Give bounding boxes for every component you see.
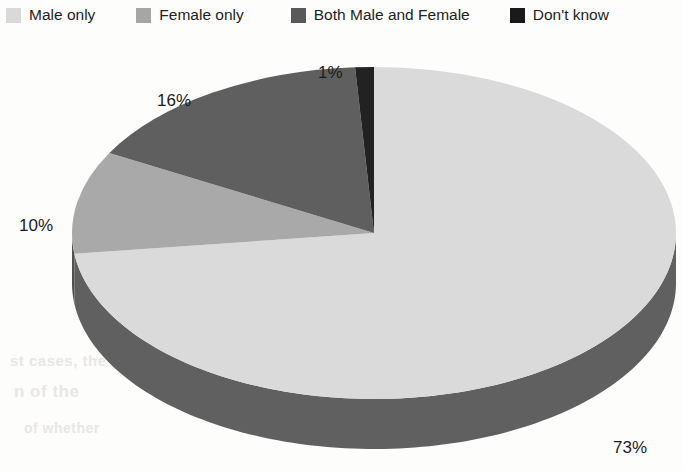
pie-data-label-both-male-and-female: 16% — [157, 92, 191, 109]
legend-item-dont-know: Don't know — [510, 0, 609, 30]
pie-data-label-dont-know: 1% — [318, 64, 343, 81]
legend-label-both-male-and-female: Both Male and Female — [314, 7, 470, 23]
legend-swatch-male-only — [6, 8, 21, 23]
legend-label-dont-know: Don't know — [533, 7, 609, 23]
legend-item-both-male-and-female: Both Male and Female — [291, 0, 470, 30]
legend-swatch-female-only — [136, 8, 151, 23]
legend-item-female-only: Female only — [136, 0, 243, 30]
legend-swatch-both-male-and-female — [291, 8, 306, 23]
legend-label-male-only: Male only — [29, 7, 95, 23]
legend-item-male-only: Male only — [6, 0, 95, 30]
legend-label-female-only: Female only — [159, 7, 243, 23]
chart-legend: Male only Female only Both Male and Fema… — [0, 0, 683, 30]
pie-chart-plot-area: 1% 16% 10% 73% — [0, 28, 683, 471]
pie-chart-figure: to kill or harm st cases, the n of the o… — [0, 0, 683, 471]
pie-chart-svg — [0, 28, 683, 471]
legend-swatch-dont-know — [510, 8, 525, 23]
paper-grain-overlay — [0, 28, 683, 471]
pie-data-label-female-only: 10% — [19, 217, 53, 234]
pie-data-label-male-only: 73% — [613, 439, 647, 456]
